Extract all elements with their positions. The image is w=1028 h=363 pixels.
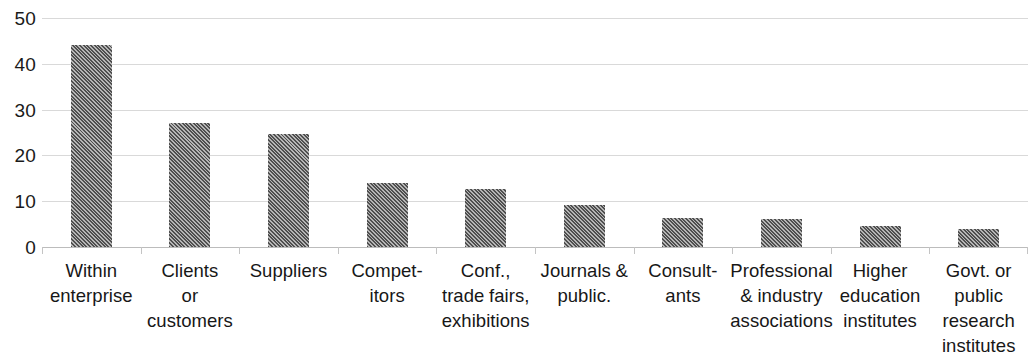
x-axis-category-label: Consult-ants	[628, 258, 739, 308]
y-tick-label-50: 50	[0, 9, 36, 28]
x-axis-category-label-line: research	[923, 308, 1028, 333]
x-axis-category-label: Withinenterprise	[36, 258, 147, 308]
x-axis-category-label-line: Within	[36, 258, 147, 283]
x-axis-category-label: Clientsorcustomers	[135, 258, 246, 333]
x-axis-tick	[929, 247, 930, 254]
x-axis-category-label-line: Conf.,	[430, 258, 541, 283]
x-axis-category-label-line: Govt. or	[923, 258, 1028, 283]
x-axis-category-label-line: exhibitions	[430, 308, 541, 333]
x-axis-category-label: Journals &public.	[529, 258, 640, 308]
bar-competitors	[367, 183, 408, 247]
bar-higher-education-institutes	[860, 226, 901, 247]
x-axis-tick	[338, 247, 339, 254]
x-axis-category-label-line: institutes	[923, 333, 1028, 358]
x-axis-category-label-line: Suppliers	[233, 258, 344, 283]
bar-professional-industry-associations	[761, 219, 802, 247]
x-axis-category-label-line: Consult-	[628, 258, 739, 283]
x-axis-tick	[42, 247, 43, 254]
bar-within-enterprise	[71, 45, 112, 247]
x-axis-tick	[732, 247, 733, 254]
x-axis-category-label: Compet-itors	[332, 258, 443, 308]
x-axis-category-label: Professional& industryassociations	[726, 258, 837, 333]
x-axis-tick	[436, 247, 437, 254]
y-tick-label-40: 40	[0, 55, 36, 74]
x-axis-ticks	[42, 247, 1028, 255]
x-axis-category-label-line: institutes	[825, 308, 936, 333]
x-axis-category-label-line: Higher	[825, 258, 936, 283]
y-tick-label-30: 30	[0, 101, 36, 120]
x-axis-category-label-line: Compet-	[332, 258, 443, 283]
x-axis-category-label: Suppliers	[233, 258, 344, 283]
x-axis-tick	[535, 247, 536, 254]
x-axis-category-label-line: ants	[628, 283, 739, 308]
x-axis-category-label: Conf.,trade fairs,exhibitions	[430, 258, 541, 333]
x-axis-tick	[239, 247, 240, 254]
bars-group	[42, 18, 1028, 247]
x-axis-category-label-line: Journals &	[529, 258, 640, 283]
bar-govt-or-public-research-institutes	[958, 229, 999, 247]
x-axis-category-labels: WithinenterpriseClientsorcustomersSuppli…	[42, 258, 1028, 363]
x-axis-category-label-line: Professional	[726, 258, 837, 283]
x-axis-tick	[831, 247, 832, 254]
y-tick-label-10: 10	[0, 192, 36, 211]
x-axis-category-label-line: itors	[332, 283, 443, 308]
x-axis-tick	[634, 247, 635, 254]
x-axis-category-label: Highereducationinstitutes	[825, 258, 936, 333]
x-axis-tick	[141, 247, 142, 254]
x-axis-category-label-line: customers	[135, 308, 246, 333]
x-axis-category-label-line: enterprise	[36, 283, 147, 308]
x-axis-category-label-line: public	[923, 283, 1028, 308]
y-tick-label-0: 0	[0, 238, 36, 257]
bar-conferences-trade-fairs-exhibitions	[465, 189, 506, 247]
x-axis-category-label: Govt. orpublicresearchinstitutes	[923, 258, 1028, 358]
bar-suppliers	[268, 134, 309, 247]
y-tick-label-20: 20	[0, 146, 36, 165]
x-axis-category-label-line: public.	[529, 283, 640, 308]
bar-journals-publications	[564, 205, 605, 247]
bar-consultants	[662, 218, 703, 247]
bar-chart: 50 40 30 20 10 0 WithinenterpriseClients…	[0, 0, 1028, 363]
bar-clients-or-customers	[169, 123, 210, 247]
x-axis-category-label-line: associations	[726, 308, 837, 333]
x-axis-category-label-line: or	[135, 283, 246, 308]
x-axis-category-label-line: trade fairs,	[430, 283, 541, 308]
x-axis-category-label-line: & industry	[726, 283, 837, 308]
x-axis-category-label-line: Clients	[135, 258, 246, 283]
x-axis-category-label-line: education	[825, 283, 936, 308]
y-axis: 50 40 30 20 10 0	[0, 0, 36, 363]
